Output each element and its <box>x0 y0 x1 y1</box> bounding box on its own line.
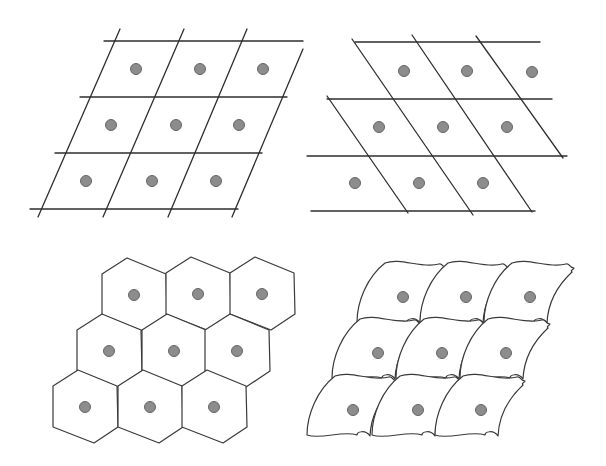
panel-parallelogram-left-lean <box>307 35 567 215</box>
lattice-point <box>502 122 513 133</box>
lattice-point <box>232 346 243 357</box>
grid-line <box>476 36 563 158</box>
lattice-point <box>414 178 425 189</box>
lattice-point <box>257 289 268 300</box>
lattice-point <box>234 120 245 131</box>
lattice-point <box>80 402 91 413</box>
grid-line <box>412 35 532 212</box>
lattice-point <box>398 292 409 303</box>
lattice-diagram <box>0 0 606 466</box>
lattice-point <box>461 292 472 303</box>
lattice-figure <box>0 0 606 466</box>
lattice-point <box>350 178 361 189</box>
lattice-point <box>131 64 142 75</box>
panel-curved-cells <box>307 261 574 436</box>
lattice-point <box>171 120 182 131</box>
lattice-point <box>438 122 449 133</box>
lattice-point <box>437 348 448 359</box>
lattice-point <box>211 176 222 187</box>
lattice-point <box>348 405 359 416</box>
lattice-point <box>476 405 487 416</box>
lattice-point <box>169 346 180 357</box>
panel-parallelogram-right-lean <box>30 29 303 217</box>
lattice-point <box>413 405 424 416</box>
lattice-point <box>147 176 158 187</box>
lattice-point <box>104 346 115 357</box>
lattice-point <box>81 176 92 187</box>
panel-hexagonal-cells <box>53 257 295 443</box>
lattice-point <box>399 66 410 77</box>
lattice-point <box>527 67 538 78</box>
lattice-point <box>209 402 220 413</box>
lattice-point <box>462 66 473 77</box>
lattice-point <box>525 292 536 303</box>
lattice-point <box>374 122 385 133</box>
lattice-point <box>501 348 512 359</box>
grid-line <box>352 39 473 215</box>
grid-line <box>232 49 303 217</box>
lattice-point <box>129 290 140 301</box>
lattice-point <box>106 120 117 131</box>
lattice-point <box>373 348 384 359</box>
lattice-point <box>258 64 269 75</box>
lattice-point <box>145 402 156 413</box>
lattice-point <box>193 289 204 300</box>
lattice-point <box>478 178 489 189</box>
grid-line <box>327 96 408 213</box>
lattice-point <box>195 64 206 75</box>
